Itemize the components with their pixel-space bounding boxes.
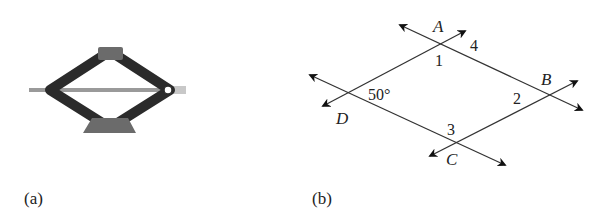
car-jack-illustration xyxy=(0,0,290,221)
angle-3: 3 xyxy=(447,121,455,138)
label-A: A xyxy=(432,17,444,36)
line-CB xyxy=(430,81,577,156)
label-C: C xyxy=(446,150,458,169)
parallelogram-diagram: A B C D 1 2 3 4 50° xyxy=(290,0,602,221)
angle-D-50: 50° xyxy=(368,86,390,103)
label-D: D xyxy=(335,109,349,128)
base-pad xyxy=(83,118,136,133)
pivot-joint xyxy=(164,86,172,94)
panel-a-car-jack: (a) xyxy=(0,0,290,221)
caption-a: (a) xyxy=(24,189,43,209)
angle-1: 1 xyxy=(435,52,443,69)
angle-4: 4 xyxy=(470,37,478,54)
panel-b-parallelogram: A B C D 1 2 3 4 50° (b) xyxy=(290,0,602,221)
top-pad xyxy=(98,47,123,60)
line-DA xyxy=(323,31,465,106)
angle-2: 2 xyxy=(513,90,521,107)
line-AB xyxy=(400,25,582,110)
caption-b: (b) xyxy=(312,189,332,209)
label-B: B xyxy=(541,70,552,89)
